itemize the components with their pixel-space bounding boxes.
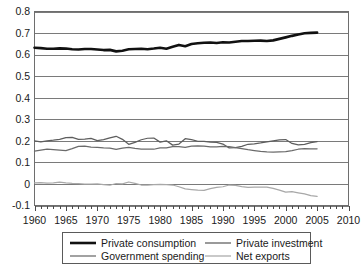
- y-tick-label: 0: [24, 178, 30, 190]
- x-tick-label: 2005: [305, 214, 329, 226]
- x-tick-label: 2010: [337, 214, 361, 226]
- series-line-private-consumption: [35, 33, 318, 52]
- y-tick-label: 0.7: [15, 27, 30, 39]
- legend-label-government-spending: Government spending: [101, 250, 204, 262]
- x-tick-label: 1970: [86, 214, 110, 226]
- y-axis-tick-labels: 0.80.70.60.50.40.30.20.10-0.1: [12, 5, 30, 211]
- y-tick-label: -0.1: [12, 199, 30, 211]
- x-tick-label: 1995: [243, 214, 267, 226]
- y-tick-label: 0.5: [15, 70, 30, 82]
- plot-area-frame: [35, 12, 349, 206]
- x-tick-label: 1990: [211, 214, 235, 226]
- economic-shares-line-chart: 0.80.70.60.50.40.30.20.10-0.1 1960196519…: [0, 0, 363, 274]
- x-tick-label: 1980: [148, 214, 172, 226]
- y-tick-label: 0.1: [15, 156, 30, 168]
- x-tick-label: 1965: [54, 214, 78, 226]
- legend-label-net-exports: Net exports: [236, 250, 290, 262]
- y-tick-label: 0.4: [15, 92, 30, 104]
- x-tick-label: 1960: [23, 214, 47, 226]
- y-tick-label: 0.3: [15, 113, 30, 125]
- chart-legend: Private consumptionPrivate investmentGov…: [63, 233, 323, 264]
- x-tick-label: 2000: [274, 214, 298, 226]
- x-tick-label: 1985: [180, 214, 204, 226]
- x-axis-tick-labels: 1960196519701975198019851990199520002005…: [23, 214, 361, 226]
- x-tick-label: 1975: [117, 214, 141, 226]
- series-line-government-spending: [35, 146, 318, 152]
- y-tick-label: 0.2: [15, 135, 30, 147]
- y-tick-label: 0.8: [15, 5, 30, 17]
- gridlines-group: [35, 13, 349, 207]
- legend-label-private-consumption: Private consumption: [101, 237, 196, 249]
- y-tick-label: 0.6: [15, 48, 30, 60]
- chart-container: 0.80.70.60.50.40.30.20.10-0.1 1960196519…: [0, 0, 363, 274]
- legend-label-private-investment: Private investment: [236, 237, 322, 249]
- data-series-group: [35, 33, 318, 197]
